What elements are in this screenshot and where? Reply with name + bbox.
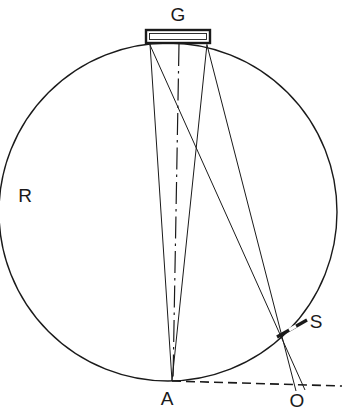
- grating-ruled-surface: [150, 34, 207, 40]
- label-focus-point: A: [161, 388, 174, 409]
- label-circle-radius: R: [18, 185, 32, 206]
- label-slit: S: [310, 311, 323, 332]
- label-origin: O: [290, 390, 305, 411]
- spectrograph-diagram: G R A S O: [0, 0, 342, 415]
- label-grating: G: [171, 4, 186, 25]
- figure-background: [0, 0, 342, 415]
